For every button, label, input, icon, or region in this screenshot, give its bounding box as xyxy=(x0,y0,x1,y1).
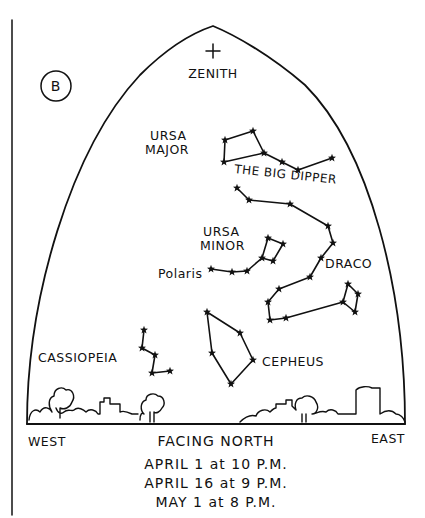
label-ursa-minor-line2: MINOR xyxy=(200,238,245,253)
ursa-minor-star-icon-0 xyxy=(207,265,215,273)
tree-east-trunk xyxy=(302,414,306,422)
facing-north-label: FACING NORTH xyxy=(157,433,274,449)
cassiopeia-star-icon-3 xyxy=(148,369,156,377)
tree-west xyxy=(140,394,164,422)
figure-badge-letter: B xyxy=(51,78,62,94)
label-ursa-major-line1: URSA xyxy=(150,128,187,143)
ursa-major-line-6 xyxy=(298,158,332,170)
direction-east: EAST xyxy=(371,431,405,446)
cepheus-line-4 xyxy=(207,312,212,353)
viewing-time-1: APRIL 1 at 10 P.M. xyxy=(144,456,288,472)
draco-line-10 xyxy=(286,302,343,318)
draco-line-2 xyxy=(290,204,328,226)
draco-line-1 xyxy=(249,200,290,204)
zenith-marker-icon xyxy=(206,44,220,58)
draco-star-icon-6 xyxy=(306,273,314,281)
label-cepheus: CEPHEUS xyxy=(262,354,324,369)
viewing-time-2: APRIL 16 at 9 P.M. xyxy=(144,475,288,491)
label-polaris: Polaris xyxy=(158,266,203,281)
constellation-draco xyxy=(233,184,362,324)
label-ursa-major-line2: MAJOR xyxy=(145,142,189,157)
star-chart: ZENITH B URSA MAJOR THE BIG DIPPER URSA … xyxy=(0,0,425,518)
constellation-cassiopeia xyxy=(138,326,174,377)
cassiopeia-star-icon-4 xyxy=(166,367,174,375)
constellation-cepheus xyxy=(203,308,257,388)
draco-line-11 xyxy=(343,284,348,302)
draco-line-3 xyxy=(328,226,333,243)
ursa-major-star-icon-3 xyxy=(220,158,228,166)
ursa-minor-star-icon-5 xyxy=(279,240,287,248)
draco-star-icon-10 xyxy=(282,314,290,322)
ursa-major-star-icon-6 xyxy=(328,154,336,162)
label-draco: DRACO xyxy=(325,256,372,271)
cepheus-line-1 xyxy=(240,333,253,360)
cepheus-line-2 xyxy=(231,360,253,384)
ursa-major-line-1 xyxy=(253,131,264,153)
direction-west: WEST xyxy=(28,434,66,449)
label-big-dipper: THE BIG DIPPER xyxy=(233,162,338,187)
draco-line-6 xyxy=(279,277,310,289)
draco-star-icon-9 xyxy=(266,316,274,324)
ursa-minor-line-0 xyxy=(211,269,232,272)
ursa-minor-star-icon-6 xyxy=(269,257,277,265)
viewing-time-3: MAY 1 at 8 P.M. xyxy=(155,494,276,510)
ursa-major-line-0 xyxy=(225,131,253,140)
skyline-west xyxy=(29,388,138,420)
ursa-major-star-icon-1 xyxy=(249,127,257,135)
label-cassiopeia: CASSIOPEIA xyxy=(38,350,117,365)
skyline-east xyxy=(240,387,405,422)
cepheus-line-3 xyxy=(212,353,231,384)
label-ursa-minor-line1: URSA xyxy=(203,224,240,239)
ursa-minor-line-3 xyxy=(262,238,268,258)
cepheus-star-icon-4 xyxy=(208,349,216,357)
ursa-minor-star-icon-1 xyxy=(228,268,236,276)
ursa-minor-line-2 xyxy=(247,258,262,271)
ursa-major-line-4 xyxy=(264,153,282,162)
cepheus-star-icon-1 xyxy=(236,329,244,337)
cepheus-line-0 xyxy=(207,312,240,333)
zenith-label: ZENITH xyxy=(188,66,238,81)
ursa-major-line-3 xyxy=(224,153,264,162)
